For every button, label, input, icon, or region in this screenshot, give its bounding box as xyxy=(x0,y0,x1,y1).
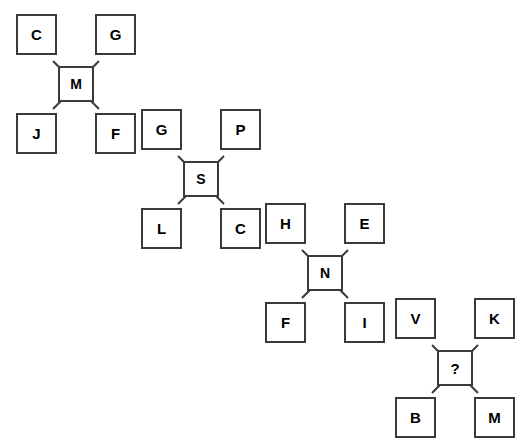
cluster-2-bottom-right: C xyxy=(220,208,261,249)
cluster-4-top-left: V xyxy=(395,298,436,339)
cluster-1-bottom-right: F xyxy=(95,113,136,154)
cluster-1-bottom-left: J xyxy=(16,113,57,154)
cluster-4-top-right: K xyxy=(474,298,515,339)
cluster-3-top-right: E xyxy=(344,203,385,244)
cluster-4-bottom-left: B xyxy=(395,397,436,438)
cluster-4: V K ? B M xyxy=(395,298,515,438)
cluster-4-bottom-right: M xyxy=(474,397,515,438)
puzzle-canvas: C G M J F G P S L C H E N F I V K ? B xyxy=(0,0,520,444)
cluster-4-center-unknown: ? xyxy=(437,350,473,386)
cluster-2: G P S L C xyxy=(141,109,261,249)
cluster-2-top-left: G xyxy=(141,109,182,150)
cluster-3-bottom-left: F xyxy=(265,302,306,343)
cluster-3-bottom-right: I xyxy=(344,302,385,343)
cluster-2-top-right: P xyxy=(220,109,261,150)
cluster-3-top-left: H xyxy=(265,203,306,244)
cluster-2-center: S xyxy=(183,161,219,197)
cluster-1-top-right: G xyxy=(95,14,136,55)
cluster-2-bottom-left: L xyxy=(141,208,182,249)
cluster-3: H E N F I xyxy=(265,203,385,343)
cluster-3-center: N xyxy=(307,255,343,291)
cluster-1-center: M xyxy=(58,66,94,102)
cluster-1-top-left: C xyxy=(16,14,57,55)
cluster-1: C G M J F xyxy=(16,14,136,154)
